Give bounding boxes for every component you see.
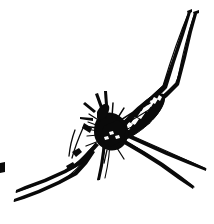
mosquito-illustration xyxy=(0,0,214,224)
drawing-canvas: Hand-drawn black ink sketch of a mosquit… xyxy=(0,0,214,224)
stray-ink-mark xyxy=(0,162,5,173)
